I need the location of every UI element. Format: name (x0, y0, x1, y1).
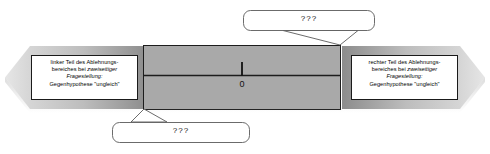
acceptance-band (144, 46, 341, 110)
left-label-line-2-plain: bereiches bei (52, 66, 88, 72)
left-label-line-2: bereiches bei zweiseitiger (34, 66, 135, 73)
right-label-line-2: bereiches bei zweiseitiger (354, 66, 455, 73)
left-label-line-3: Fragestellung: (34, 73, 135, 80)
left-label-line-4: Gegenhypothese "ungleich" (34, 81, 135, 88)
left-label-line-1: linker Teil des Ablehnungs- (34, 59, 135, 66)
left-label-line-2-italic: zweiseitiger (87, 66, 117, 72)
right-label-line-1: rechter Teil des Ablehnungs- (354, 59, 455, 66)
top-callout-tail (283, 31, 358, 46)
right-label-line-4: Gegenhypothese "ungleich" (354, 81, 455, 88)
right-rejection-region-label: rechter Teil des Ablehnungs- bereiches b… (351, 55, 458, 100)
zero-axis-label: 0 (233, 79, 251, 89)
right-label-line-2-italic: zweiseitiger (407, 66, 437, 72)
top-callout-label: ??? (243, 14, 375, 23)
figure-canvas: linker Teil des Ablehnungs- bereiches be… (0, 0, 490, 154)
bottom-callout-label: ??? (112, 126, 250, 135)
right-label-line-2-plain: bereiches bei (372, 66, 408, 72)
left-rejection-region-label: linker Teil des Ablehnungs- bereiches be… (31, 55, 138, 100)
right-label-line-3: Fragestellung: (354, 73, 455, 80)
